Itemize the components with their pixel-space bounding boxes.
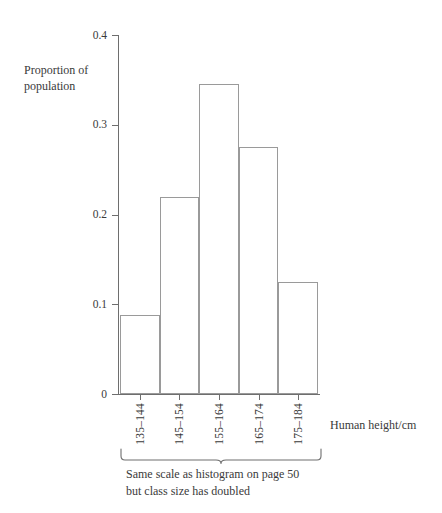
brace-caption-line-1: Same scale as histogram on page 50 [126,466,386,483]
bar-1 [160,197,200,394]
bar-4 [278,282,318,394]
range-brace-icon [120,448,322,464]
x-axis-title: Human height/cm [330,418,416,433]
x-tick-1 [179,395,180,400]
x-category-label-4: 175–184 [292,403,304,445]
bar-0 [120,315,160,394]
x-tick-2 [219,395,220,400]
histogram-figure: Proportion of population 00.10.20.30.4 1… [0,0,442,513]
bar-2 [199,84,239,394]
x-category-label-0: 135–144 [134,403,146,445]
x-tick-4 [298,395,299,400]
x-tick-0 [140,395,141,400]
x-category-label-1: 145–154 [173,403,185,445]
x-tick-3 [259,395,260,400]
x-category-label-3: 165–174 [253,403,265,445]
brace-caption-line-2: but class size has doubled [126,483,386,500]
x-category-label-2: 155–164 [213,403,225,445]
bar-3 [239,147,279,394]
brace-caption: Same scale as histogram on page 50 but c… [126,466,386,501]
